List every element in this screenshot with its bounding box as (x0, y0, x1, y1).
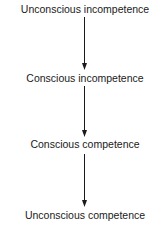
arrow-down-icon (82, 154, 87, 207)
arrows-layer (0, 0, 152, 227)
arrow-down-icon (82, 17, 87, 70)
arrow-down-icon (82, 86, 87, 137)
competence-stages-diagram: Unconscious incompetence Conscious incom… (0, 0, 152, 227)
